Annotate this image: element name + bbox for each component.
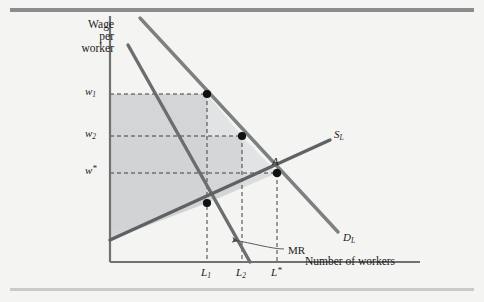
demand-curve-label-sub: L [351, 236, 355, 245]
y-tick-wstar-star: * [92, 163, 97, 173]
point-A-label: A [272, 156, 278, 167]
supply-curve-label: SL [334, 129, 344, 141]
x-tick-label-L2: L2 [236, 267, 246, 279]
x-tick-L1-sub: 1 [207, 271, 211, 280]
demand-curve-label: DL [343, 232, 355, 244]
y-axis-title-line3: worker [62, 42, 114, 54]
x-tick-L2-sub: 2 [242, 271, 246, 280]
y-tick-label-wstar: w* [85, 165, 97, 177]
figure-container: Wage per worker Number of workers w1 w2 … [0, 0, 484, 302]
x-axis-title: Number of workers [305, 255, 395, 267]
point-w1-L1 [203, 90, 211, 98]
x-tick-Lstar-star: * [277, 265, 282, 275]
demand-curve-label-base: D [343, 231, 351, 243]
x-tick-label-L1: L1 [201, 267, 211, 279]
y-tick-w2-sub: 2 [92, 132, 96, 141]
y-tick-w1-sub: 1 [92, 90, 96, 99]
y-tick-label-w1: w1 [85, 86, 96, 98]
x-tick-label-Lstar: L* [271, 267, 282, 279]
y-axis-title: Wage per worker [62, 18, 114, 54]
point-mr-supply [203, 199, 211, 207]
y-axis-title-line1: Wage [62, 18, 114, 30]
shaded-region [110, 94, 330, 262]
marginal-revenue-label: MR [288, 245, 305, 257]
bottom-rule [10, 288, 474, 291]
supply-curve-label-sub: L [340, 133, 344, 142]
supply-curve-label-base: S [334, 128, 340, 140]
y-axis-title-line2: per [62, 30, 114, 42]
top-rule [10, 8, 474, 12]
point-A [273, 169, 282, 178]
point-w2-L2 [238, 132, 246, 140]
y-tick-label-w2: w2 [85, 128, 96, 140]
